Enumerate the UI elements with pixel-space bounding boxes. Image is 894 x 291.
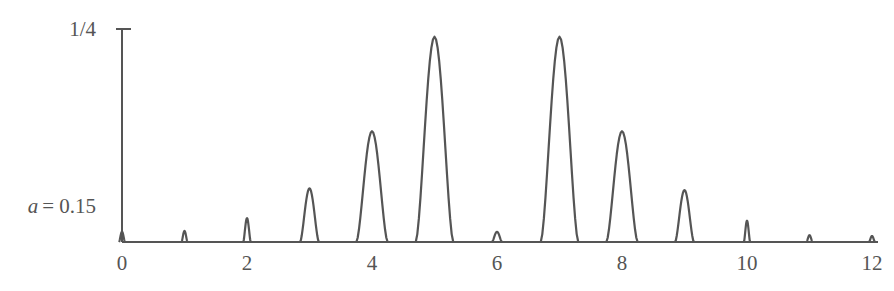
annotation-label: a= 0.15: [28, 194, 96, 218]
peak-10: [744, 221, 750, 242]
peak-3: [300, 188, 319, 242]
x-tick-label: 6: [492, 251, 503, 275]
peak-5: [416, 37, 454, 242]
x-tick-label: 12: [862, 251, 883, 275]
peak-7: [541, 37, 579, 242]
peak-1: [182, 231, 188, 242]
peak-9: [675, 190, 694, 242]
peak-2: [243, 218, 251, 242]
x-tick-label: 10: [737, 251, 758, 275]
peak-chart: 1/4 a= 0.15 024681012: [0, 0, 894, 291]
x-tick-label: 2: [242, 251, 253, 275]
x-tick-label: 4: [367, 251, 378, 275]
annotation-value: = 0.15: [42, 194, 96, 218]
peak-4: [356, 131, 387, 242]
y-top-label: 1/4: [69, 17, 96, 41]
peaks-series: [119, 37, 875, 242]
x-tick-label: 0: [117, 251, 128, 275]
peak-8: [606, 131, 637, 242]
y-axis: 1/4 a= 0.15: [28, 17, 131, 242]
x-axis: 024681012: [117, 242, 883, 275]
x-tick-label: 8: [617, 251, 628, 275]
x-tick-labels: 024681012: [117, 251, 883, 275]
annotation-variable: a: [28, 194, 39, 218]
peak-6: [492, 232, 502, 242]
peak-11: [807, 235, 813, 242]
